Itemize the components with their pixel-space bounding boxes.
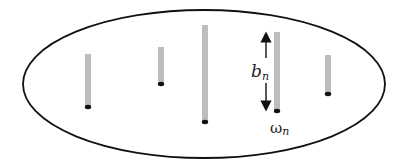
bar-2-dot xyxy=(158,82,164,86)
bar-1-body xyxy=(85,54,91,107)
bar-5-dot xyxy=(325,92,331,96)
length-label-base: b xyxy=(251,61,262,81)
bar-1-dot xyxy=(85,105,91,109)
bar-3-dot xyxy=(202,120,208,124)
bar-3 xyxy=(202,25,208,124)
diagram-canvas: bn ωn xyxy=(0,0,403,168)
bar-1 xyxy=(85,54,91,109)
bar-4-dot xyxy=(274,109,280,113)
bar-4 xyxy=(274,32,280,113)
bar-2 xyxy=(158,47,164,86)
frequency-label-base: ω xyxy=(270,119,282,137)
length-label: bn xyxy=(251,61,269,83)
bar-3-body xyxy=(202,25,208,122)
frequency-label: ωn xyxy=(270,119,289,138)
frequency-label-sub: n xyxy=(282,125,289,138)
bar-5-body xyxy=(325,55,331,94)
length-label-sub: n xyxy=(262,70,269,83)
bar-4-body xyxy=(274,32,280,111)
bar-5 xyxy=(325,55,331,96)
bar-2-body xyxy=(158,47,164,84)
bars-group xyxy=(85,25,331,124)
